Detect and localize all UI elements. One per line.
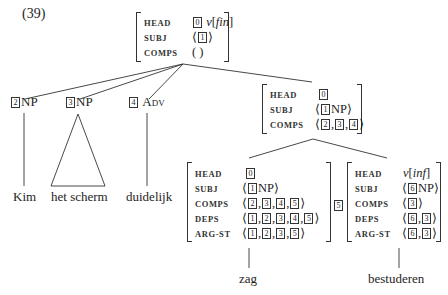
attr-head: HEAD bbox=[355, 167, 382, 182]
tag-4: 4 bbox=[276, 198, 285, 209]
rangle: ⟩ bbox=[418, 196, 423, 210]
category-label: NP bbox=[76, 94, 93, 109]
tag-1: 1 bbox=[198, 32, 207, 43]
langle: ⟨ bbox=[402, 226, 407, 240]
langle: ⟨ bbox=[242, 181, 247, 195]
tag-3: 3 bbox=[276, 213, 285, 224]
tag-6: 6 bbox=[408, 228, 417, 239]
attr-deps: DEPS bbox=[195, 212, 219, 227]
category-label: NP bbox=[21, 94, 38, 109]
attr-deps: DEPS bbox=[355, 212, 379, 227]
attr-head: HEAD bbox=[195, 167, 222, 182]
tag-0: 0 bbox=[193, 17, 202, 28]
tag-4: 4 bbox=[129, 97, 138, 108]
word-het-scherm: het scherm bbox=[51, 189, 108, 205]
tag-4: 4 bbox=[349, 119, 358, 130]
tag-1: 1 bbox=[321, 104, 330, 115]
langle: ⟨ bbox=[242, 196, 247, 210]
tag-6: 6 bbox=[408, 183, 417, 194]
tag-0: 0 bbox=[319, 89, 328, 100]
root-subj-row: SUBJ ⟨1⟩ bbox=[144, 30, 167, 45]
tag-3: 3 bbox=[276, 228, 285, 239]
langle: ⟨ bbox=[315, 117, 320, 131]
word-zag: zag bbox=[239, 271, 257, 287]
rangle: ⟩ bbox=[359, 117, 364, 131]
rangle: ⟩ bbox=[300, 226, 305, 240]
word-kim: Kim bbox=[13, 189, 36, 205]
tag-1: 1 bbox=[248, 213, 257, 224]
daughter-np-het-scherm: 3NP bbox=[65, 94, 93, 110]
attr-comps: COMPS bbox=[270, 118, 304, 133]
root-comps-value: ( ) bbox=[192, 45, 203, 60]
tag-2: 2 bbox=[11, 97, 20, 108]
rangle: ⟩ bbox=[432, 211, 437, 225]
bracket-close: ] bbox=[426, 166, 430, 180]
langle: ⟨ bbox=[192, 30, 197, 44]
rangle: ⟩ bbox=[347, 102, 352, 116]
bestuderen-outer-tag: 5 bbox=[333, 198, 344, 213]
tag-3: 3 bbox=[335, 119, 344, 130]
head-inf: inf bbox=[413, 166, 426, 180]
attr-subj: SUBJ bbox=[270, 103, 293, 118]
root-comps-row: COMPS ( ) bbox=[144, 45, 178, 60]
rangle: ⟩ bbox=[434, 181, 439, 195]
tag-1: 1 bbox=[248, 183, 257, 194]
root-head-fin: fin bbox=[216, 15, 229, 29]
root-avm: HEAD 0 v[fin] SUBJ ⟨1⟩ COMPS ( ) bbox=[136, 12, 229, 62]
tag-2: 2 bbox=[262, 213, 271, 224]
tag-4: 4 bbox=[290, 213, 299, 224]
rangle: ⟩ bbox=[300, 196, 305, 210]
attr-comps: COMPS bbox=[355, 197, 389, 212]
tag-5: 5 bbox=[334, 200, 343, 211]
tag-6: 6 bbox=[408, 213, 417, 224]
tag-3: 3 bbox=[422, 213, 431, 224]
tag-3: 3 bbox=[262, 198, 271, 209]
tag-2: 2 bbox=[321, 119, 330, 130]
tag-5: 5 bbox=[290, 228, 299, 239]
tag-0: 0 bbox=[246, 168, 255, 179]
subj-category: NP bbox=[258, 181, 274, 195]
rangle: ⟩ bbox=[208, 30, 213, 44]
attr-subj: SUBJ bbox=[144, 31, 167, 46]
tag-1: 1 bbox=[248, 228, 257, 239]
langle: ⟨ bbox=[315, 102, 320, 116]
attr-comps: COMPS bbox=[195, 197, 229, 212]
attr-arg-st: ARG-ST bbox=[355, 227, 391, 242]
tag-3: 3 bbox=[422, 228, 431, 239]
root-head-row: HEAD 0 v[fin] bbox=[144, 15, 171, 30]
attr-subj: SUBJ bbox=[355, 182, 378, 197]
attr-arg-st: ARG-ST bbox=[195, 227, 231, 242]
attr-subj: SUBJ bbox=[195, 182, 218, 197]
word-bestuderen: bestuderen bbox=[368, 271, 424, 287]
word-duidelijk: duidelijk bbox=[126, 189, 172, 205]
subj-category: NP bbox=[418, 181, 434, 195]
tag-2: 2 bbox=[262, 228, 271, 239]
langle: ⟨ bbox=[242, 211, 247, 225]
bestuderen-avm: HEAD v[inf] SUBJ ⟨6NP⟩ COMPS ⟨3⟩ DEPS ⟨6… bbox=[347, 162, 441, 242]
langle: ⟨ bbox=[402, 181, 407, 195]
bracket-close: ] bbox=[229, 15, 233, 29]
langle: ⟨ bbox=[402, 196, 407, 210]
head-daughter-avm: HEAD 0 SUBJ ⟨1NP⟩ COMPS ⟨2,3,4⟩ bbox=[262, 84, 362, 134]
attr-comps: COMPS bbox=[144, 46, 178, 61]
rangle: ⟩ bbox=[314, 211, 319, 225]
subj-category: NP bbox=[331, 102, 347, 116]
tag-5: 5 bbox=[304, 213, 313, 224]
daughter-np-kim: 2NP bbox=[10, 94, 38, 110]
tag-3: 3 bbox=[66, 97, 75, 108]
rangle: ⟩ bbox=[274, 181, 279, 195]
attr-head: HEAD bbox=[270, 88, 297, 103]
tag-3: 3 bbox=[408, 198, 417, 209]
daughter-adv: 4 Adv bbox=[128, 94, 165, 110]
attr-head: HEAD bbox=[144, 16, 171, 31]
tag-5: 5 bbox=[290, 198, 299, 209]
rangle: ⟩ bbox=[432, 226, 437, 240]
zag-avm: HEAD 0 SUBJ ⟨1NP⟩ COMPS ⟨2,3,4,5⟩ DEPS ⟨… bbox=[187, 162, 331, 242]
tag-2: 2 bbox=[248, 198, 257, 209]
langle: ⟨ bbox=[402, 211, 407, 225]
category-label: Adv bbox=[142, 94, 164, 109]
langle: ⟨ bbox=[242, 226, 247, 240]
